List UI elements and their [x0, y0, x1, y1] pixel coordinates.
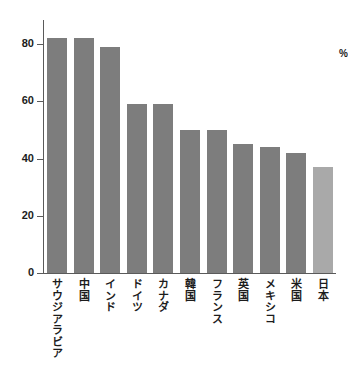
bar[interactable] [313, 167, 333, 273]
bar-slot [180, 20, 200, 273]
bar-slot [127, 20, 147, 273]
x-axis-category-label: フランス [211, 278, 222, 324]
x-axis-category-label: メキシコ [264, 278, 275, 324]
bar-chart: 020406080 % サウジアラビア中国インドドイツカナダ韓国フランス英国メキ… [0, 0, 348, 374]
y-axis-tick-labels: 020406080 [0, 0, 34, 374]
bar[interactable] [47, 38, 67, 273]
x-axis-category-label: カナダ [157, 278, 168, 313]
bar[interactable] [180, 130, 200, 273]
bar[interactable] [100, 47, 120, 273]
y-axis-tick [37, 216, 43, 217]
x-axis-category-label: インド [104, 278, 115, 313]
x-axis-category-label: 米国 [290, 278, 301, 301]
y-axis-tick [37, 44, 43, 45]
bar[interactable] [127, 104, 147, 273]
x-axis-category-label: サウジアラビア [51, 278, 62, 359]
y-axis-tick-label: 40 [0, 153, 34, 164]
bar-slot [233, 20, 253, 273]
plot-area [44, 20, 336, 273]
bar-slot [100, 20, 120, 273]
x-axis-category-label: 英国 [237, 278, 248, 301]
y-axis-tick [37, 273, 43, 274]
y-axis-tick [37, 159, 43, 160]
y-axis-tick [37, 101, 43, 102]
y-axis-tick-label: 60 [0, 95, 34, 106]
bar-slot [313, 20, 333, 273]
bar[interactable] [74, 38, 94, 273]
x-axis-category-label: 日本 [317, 278, 328, 301]
bar-slot [260, 20, 280, 273]
bar[interactable] [286, 153, 306, 273]
bar[interactable] [260, 147, 280, 273]
bar-slot [74, 20, 94, 273]
bar[interactable] [233, 144, 253, 273]
y-axis-tick-label: 0 [0, 267, 34, 278]
y-axis-tick-label: 20 [0, 210, 34, 221]
y-axis-tick-label: 80 [0, 38, 34, 49]
x-axis-category-label: 韓国 [184, 278, 195, 301]
bar[interactable] [207, 130, 227, 273]
bar[interactable] [153, 104, 173, 273]
bar-slot [207, 20, 227, 273]
bar-slot [153, 20, 173, 273]
bar-slot [286, 20, 306, 273]
x-axis-category-label: 中国 [78, 278, 89, 301]
x-axis-line [43, 273, 336, 274]
bar-slot [47, 20, 67, 273]
x-axis-category-label: ドイツ [131, 278, 142, 313]
